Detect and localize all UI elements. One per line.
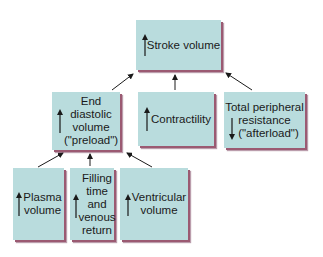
label-line: return <box>78 224 115 237</box>
node-label: Stroke volume <box>147 39 221 52</box>
node-plasma-volume: Plasma volume <box>13 168 64 240</box>
node-label: Plasma volume <box>23 191 61 217</box>
label-line: Filling <box>78 172 115 185</box>
arrow-up-icon <box>125 194 131 216</box>
node-label: Total peripheral resistance ("afterload"… <box>225 101 304 140</box>
label-line: End diastolic <box>62 95 120 121</box>
label-line: Plasma <box>23 191 61 204</box>
node-contractility: Contractility <box>138 92 214 146</box>
node-label: Ventricular volume <box>132 191 186 217</box>
node-ventricular-volume: Ventricular volume <box>120 168 188 240</box>
node-total-peripheral-resistance: Total peripheral resistance ("afterload"… <box>224 92 305 148</box>
node-filling-time-venous-return: Filling time and venous return <box>70 168 114 240</box>
label-line: and <box>78 198 115 211</box>
label-line: time <box>78 185 115 198</box>
label-line: ("preload") <box>62 134 120 147</box>
node-end-diastolic-volume: End diastolic volume ("preload") <box>52 92 120 150</box>
arrow-up-icon <box>73 194 79 218</box>
node-stroke-volume: Stroke volume <box>136 20 221 70</box>
label-line: volume <box>23 204 61 217</box>
label-line: volume <box>132 204 186 217</box>
arrow-down-icon <box>229 118 235 140</box>
label-line: resistance <box>225 114 304 127</box>
label-line: Total peripheral <box>225 101 304 114</box>
label-line: Ventricular <box>132 191 186 204</box>
arrow-up-icon <box>142 34 148 56</box>
node-label: End diastolic volume ("preload") <box>62 95 120 147</box>
arrow-up-icon <box>16 192 22 216</box>
node-label: Filling time and venous return <box>78 172 115 237</box>
label-line: venous <box>78 211 115 224</box>
node-label: Contractility <box>151 113 211 126</box>
label-line: ("afterload") <box>225 127 304 140</box>
label-line: volume <box>62 121 120 134</box>
arrow-up-icon <box>57 109 63 133</box>
arrow-up-icon <box>144 107 150 131</box>
